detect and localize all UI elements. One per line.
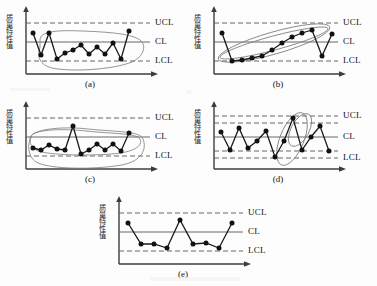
caption-c: (c) [70,174,110,184]
y-axis-arrow-b [211,6,217,12]
y-axis-label-c: 质量特性值 [6,109,13,145]
lcl-label-c: LCL [155,150,173,160]
cl-label-c: CL [155,131,167,141]
scan-artifact-3 [150,277,240,281]
cl-label-b: CL [343,36,355,46]
lcl-label-a: LCL [155,55,173,65]
caption-b: (b) [258,79,298,89]
scan-artifact-2 [186,90,192,94]
ucl-label-c: UCL [155,112,174,122]
y-axis-arrow-c [23,101,29,107]
y-axis-arrow-d [211,101,217,107]
data-points-e [126,218,235,251]
y-axis-arrow-e [116,196,122,202]
y-axis-label-b: 质量特性值 [194,14,201,50]
chart-panel-e: 质量特性值 UCL CL LCL (e) [93,190,283,286]
x-axis-arrow-b [339,71,346,77]
caption-d: (d) [258,174,298,184]
x-axis-arrow-a [151,71,158,77]
caption-a: (a) [70,79,110,89]
x-axis-arrow-d [339,166,346,172]
ucl-label-b: UCL [343,17,362,27]
lcl-label-e: LCL [248,245,266,255]
chart-panel-d: 质量特性值 UCL CL [188,95,377,190]
y-axis-label-e: 质量特性值 [99,204,106,240]
x-axis-arrow-e [244,261,251,267]
lcl-label-d: LCL [343,152,361,162]
ucl-label-d: UCL [343,110,362,120]
chart-panel-b: 质量特性值 UCL CL LCL (b) [188,0,377,95]
y-axis-label-a: 质量特性值 [6,14,13,50]
data-line-e [128,220,232,248]
y-axis-label-d: 质量特性值 [194,109,201,145]
ucl-label-e: UCL [248,207,267,217]
control-chart-figure: 质量特性值 UCL CL [0,0,377,286]
ucl-label-a: UCL [155,17,174,27]
x-axis-arrow-c [151,166,158,172]
cl-label-d: CL [343,131,355,141]
cl-label-a: CL [155,36,167,46]
scan-artifact-1 [10,88,50,91]
chart-panel-a: 质量特性值 UCL CL [0,0,190,95]
chart-panel-c: 质量特性值 UCL CL LCL [0,95,190,190]
cl-label-e: CL [248,226,260,236]
lcl-label-b: LCL [343,55,361,65]
y-axis-arrow-a [23,6,29,12]
